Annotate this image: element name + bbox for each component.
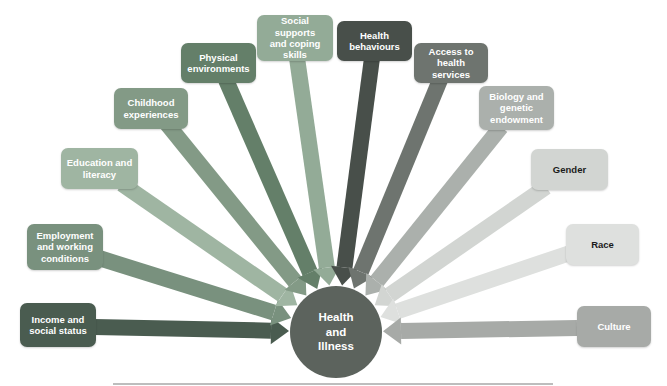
center-node-label-line: Illness bbox=[318, 339, 354, 354]
factor-label: Social supports and coping skills bbox=[260, 15, 330, 61]
factor-label: Education and literacy bbox=[67, 157, 132, 180]
arrow-income-and-social-status bbox=[94, 317, 289, 344]
arrow-shaft bbox=[401, 328, 577, 331]
factor-box-race: Race bbox=[566, 224, 639, 265]
factor-label: Culture bbox=[597, 321, 630, 332]
center-node-health-and-illness: Health and Illness bbox=[290, 286, 382, 378]
factor-box-physical-environments: Physical environments bbox=[181, 43, 256, 83]
factor-box-childhood-experiences: Childhood experiences bbox=[114, 88, 188, 129]
factor-box-health-behaviours: Health behaviours bbox=[337, 21, 412, 61]
factor-label: Income and social status bbox=[29, 314, 87, 337]
factor-label: Health behaviours bbox=[349, 30, 400, 53]
factor-label: Physical environments bbox=[187, 52, 249, 75]
factor-label: Gender bbox=[553, 164, 586, 175]
factor-box-gender: Gender bbox=[531, 149, 608, 190]
diagram-canvas: Health and Illness Income and social sta… bbox=[0, 0, 667, 386]
factor-label: Race bbox=[591, 239, 614, 250]
factor-label: Biology and genetic endowment bbox=[489, 91, 543, 125]
arrow-shaft bbox=[398, 253, 570, 311]
factor-label: Access to health services bbox=[417, 46, 485, 80]
factor-box-culture: Culture bbox=[577, 306, 651, 347]
factor-label: Childhood experiences bbox=[124, 97, 179, 120]
factor-box-social-supports-and-coping-skills: Social supports and coping skills bbox=[257, 15, 333, 61]
arrow-culture bbox=[383, 317, 577, 344]
arrow-head bbox=[383, 317, 401, 344]
factor-box-employment-and-working-conditions: Employment and working conditions bbox=[27, 224, 103, 270]
center-node-label-line: Health bbox=[318, 310, 353, 325]
arrow-shaft bbox=[94, 327, 271, 331]
factor-box-education-and-literacy: Education and literacy bbox=[61, 148, 138, 189]
center-node-label-line: and bbox=[326, 325, 346, 340]
arrow-employment-and-working-conditions bbox=[99, 258, 291, 326]
factor-box-access-to-health-services: Access to health services bbox=[414, 43, 488, 83]
factor-label: Employment and working conditions bbox=[36, 230, 93, 264]
factor-box-biology-and-genetic-endowment: Biology and genetic endowment bbox=[479, 86, 554, 130]
factor-box-income-and-social-status: Income and social status bbox=[20, 303, 96, 347]
